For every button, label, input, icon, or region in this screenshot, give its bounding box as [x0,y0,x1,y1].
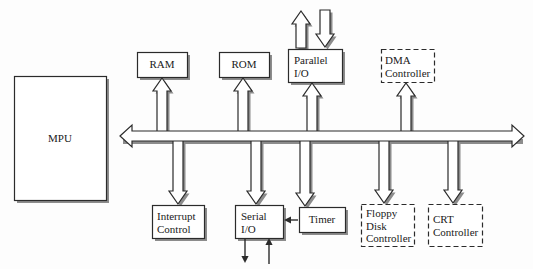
block-dma-controller [382,50,435,83]
block-interrupt-control [153,206,205,239]
block-floppy-disk-controller [362,205,415,247]
diagram-canvas [0,0,533,269]
block-ram [138,53,188,78]
block-serial-io [236,206,284,239]
block-diagram: MPURAMROMParallel I/ODMA ControllerInter… [0,0,533,269]
block-timer [300,208,346,233]
block-rom [220,53,270,78]
connector-head-serial-io-output-down [241,256,248,263]
block-crt-controller [429,205,483,247]
block-parallel-io [289,50,343,83]
block-mpu [15,77,107,201]
